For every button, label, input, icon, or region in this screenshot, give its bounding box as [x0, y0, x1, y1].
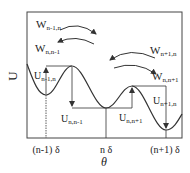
- x-tick-n-plus-1: (n+1) δ: [150, 144, 180, 156]
- label-u-n-n-plus-1: Un,n+1: [119, 112, 143, 125]
- x-axis-label: θ: [101, 155, 107, 169]
- x-tick-n: n δ: [100, 144, 113, 155]
- arrow-w-n-plus-1-n: [110, 52, 155, 60]
- arrow-w-n-n-plus-1: [114, 65, 156, 74]
- label-w-n-n-plus-1: Wn,n+1: [152, 70, 179, 84]
- label-u-n-n-minus-1: Un,n-1: [61, 113, 83, 126]
- label-w-n-n-minus-1: Wn,n-1: [35, 42, 60, 56]
- label-u-n-minus-1-n: Un-1,n: [34, 70, 56, 83]
- arrow-w-n-n-minus-1: [58, 38, 94, 44]
- label-u-n-plus-1-n: Un+1,n: [153, 95, 177, 108]
- arrow-w-n-minus-1-n: [60, 26, 96, 34]
- label-w-n-minus-1-n: Wn-1,n: [36, 18, 61, 32]
- energy-landscape-diagram: Wn-1,n Wn,n-1 Wn+1,n Wn,n+1 Un-1,n Un,n-…: [0, 0, 190, 173]
- x-tick-n-minus-1: (n-1) δ: [32, 144, 59, 156]
- label-w-n-plus-1-n: Wn+1,n: [150, 44, 177, 58]
- y-axis-label: U: [5, 71, 20, 81]
